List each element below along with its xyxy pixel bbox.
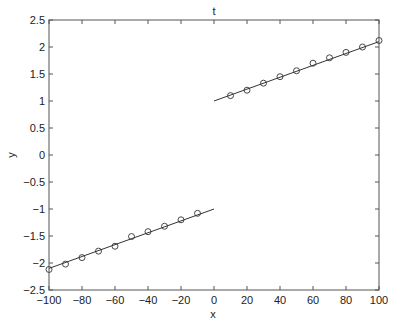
x-tick-label: −60: [106, 294, 125, 306]
line-chart: t −100−80−60−40−20020406080100 −2.5−2−1.…: [0, 0, 402, 329]
x-tick-label: 40: [274, 294, 286, 306]
x-tick-label: 0: [211, 294, 217, 306]
x-tick-label: −20: [172, 294, 191, 306]
y-tick-label: 0: [39, 149, 45, 161]
chart-title: t: [212, 5, 215, 17]
x-tick-label: 20: [241, 294, 253, 306]
x-tick-label: 60: [307, 294, 319, 306]
plot-area: [46, 38, 382, 273]
y-axis-label: y: [5, 152, 17, 158]
y-tick-label: −1.5: [23, 230, 45, 242]
x-axis-label: x: [210, 308, 216, 320]
x-tick-label: 100: [370, 294, 388, 306]
y-tick-label: 0.5: [30, 122, 45, 134]
x-tick-label: −40: [139, 294, 158, 306]
series-line: [214, 42, 379, 101]
y-tick-label: 1.5: [30, 68, 45, 80]
y-tick-label: −2.5: [23, 284, 45, 296]
y-tick-label: −2: [32, 257, 45, 269]
y-tick-label: 1: [39, 95, 45, 107]
y-tick-label: 2.5: [30, 14, 45, 26]
x-tick-label: −80: [73, 294, 92, 306]
series-line: [49, 209, 214, 268]
x-axis: −100−80−60−40−20020406080100: [37, 20, 389, 306]
y-tick-label: 2: [39, 41, 45, 53]
y-axis: −2.5−2−1.5−1−0.500.511.522.5: [23, 14, 379, 296]
y-tick-label: −0.5: [23, 176, 45, 188]
x-tick-label: 80: [340, 294, 352, 306]
y-tick-label: −1: [32, 203, 45, 215]
